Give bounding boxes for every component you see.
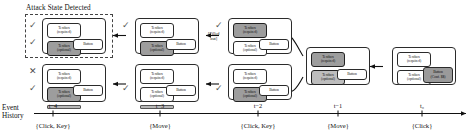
confirm-button[interactable]: Button (Conf. $$) bbox=[423, 67, 453, 83]
event-label: {Click} bbox=[387, 122, 457, 129]
submit-button[interactable]: Button bbox=[259, 39, 289, 50]
state-node[interactable]: Textbox (required) Textbox (optional) Bu… bbox=[392, 47, 456, 85]
tick-label: t−2 bbox=[238, 102, 278, 109]
textbox-required[interactable]: Textbox (required) bbox=[47, 69, 81, 84]
event-label: {Click, Key} bbox=[18, 122, 88, 129]
check-mark: ✓ bbox=[215, 21, 223, 30]
state-node[interactable]: Textbox (required) Textbox (optional) Bu… bbox=[42, 18, 106, 54]
textbox-required[interactable]: Textbox (required) bbox=[233, 69, 267, 84]
textbox-required[interactable]: Textbox (required) bbox=[233, 23, 267, 38]
tick-label: t₀ bbox=[402, 102, 442, 109]
filled-out-annotation: [Filled out] bbox=[208, 31, 219, 41]
diagram-canvas: Attack State Detected Textbox (required)… bbox=[0, 0, 476, 137]
check-mark: ✓ bbox=[29, 38, 37, 47]
check-mark: ✓ bbox=[122, 84, 130, 93]
state-node[interactable]: Textbox (required) Textbox (optional) Bu… bbox=[228, 18, 292, 54]
textbox-required[interactable]: Textbox (required) bbox=[47, 23, 81, 38]
submit-button[interactable]: Button bbox=[166, 39, 196, 50]
attack-state-label: Attack State Detected bbox=[26, 4, 91, 12]
tick-label: t−3 bbox=[140, 102, 180, 109]
check-mark: ✓ bbox=[215, 84, 223, 93]
tick-label: t−1 bbox=[318, 102, 358, 109]
tick-label: t−4 bbox=[33, 102, 73, 109]
submit-button[interactable]: Button bbox=[166, 85, 196, 96]
submit-button[interactable]: Button bbox=[73, 85, 103, 96]
event-label: {Click, Key} bbox=[223, 122, 293, 129]
cross-mark: ✕ bbox=[29, 67, 37, 76]
state-node[interactable]: Textbox (required) Textbox (optional) Bu… bbox=[42, 64, 106, 102]
textbox-required[interactable]: Textbox (required) bbox=[140, 69, 174, 84]
textbox-required[interactable]: Textbox (required) bbox=[140, 23, 174, 38]
check-mark: ✓ bbox=[122, 21, 130, 30]
textbox-required[interactable]: Textbox (required) bbox=[311, 52, 345, 67]
textbox-required[interactable]: Textbox (required) bbox=[397, 52, 431, 67]
check-mark: ✓ bbox=[29, 21, 37, 30]
event-history-label: Event History bbox=[2, 104, 24, 121]
check-mark: ✓ bbox=[29, 84, 37, 93]
event-label: {Move} bbox=[303, 122, 373, 129]
state-node[interactable]: Textbox (required) Textbox (optional) Bu… bbox=[228, 64, 292, 100]
state-node[interactable]: Textbox (required) Textbox (optional) Bu… bbox=[306, 47, 370, 85]
event-label: {Move} bbox=[125, 122, 195, 129]
submit-button[interactable]: Button bbox=[73, 39, 103, 50]
submit-button[interactable]: Button bbox=[259, 85, 289, 96]
state-node[interactable]: Textbox (required) Textbox (optional) Bu… bbox=[135, 64, 199, 102]
state-node[interactable]: Textbox (required) Textbox (optional) Bu… bbox=[135, 18, 199, 54]
submit-button[interactable]: Button bbox=[337, 69, 367, 80]
